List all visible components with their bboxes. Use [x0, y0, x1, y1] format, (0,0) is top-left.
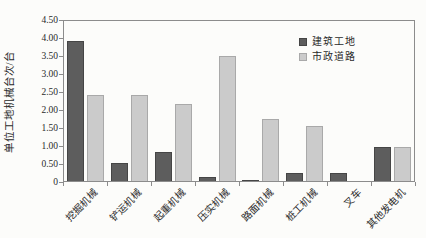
y-tick-mark — [59, 92, 63, 93]
y-tick-label-0.50: 0.50 — [14, 158, 58, 170]
y-tick-mark — [59, 164, 63, 165]
y-tick-label-3.00: 3.00 — [14, 68, 58, 80]
x-label-7: 其他发电机 — [365, 187, 408, 230]
y-tick-mark — [59, 110, 63, 111]
y-tick-mark — [59, 74, 63, 75]
bar-construction-site-2 — [155, 152, 172, 181]
x-tick-mark — [283, 182, 284, 186]
y-tick-mark — [59, 56, 63, 57]
x-tick-mark — [239, 182, 240, 186]
bar-group-7 — [370, 21, 414, 181]
x-label-1: 铲运机械 — [108, 187, 144, 223]
bar-municipal-road-5 — [306, 126, 323, 181]
y-tick-mark — [59, 128, 63, 129]
x-tick-mark — [415, 182, 416, 186]
bar-group-3 — [195, 21, 239, 181]
x-tick-mark — [371, 182, 372, 186]
bar-municipal-road-4 — [262, 119, 279, 181]
bar-group-1 — [108, 21, 152, 181]
bar-construction-site-0 — [67, 41, 84, 181]
y-tick-label-4.00: 4.00 — [14, 32, 58, 44]
bar-construction-site-4 — [242, 180, 259, 181]
legend-label-municipal-road: 市政道路 — [312, 51, 356, 63]
x-label-2: 起重机械 — [152, 187, 188, 223]
x-tick-mark — [107, 182, 108, 186]
x-label-6: 叉车 — [342, 187, 364, 209]
x-label-0: 挖掘机械 — [64, 187, 100, 223]
y-tick-label-2.00: 2.00 — [14, 104, 58, 116]
x-tick-mark — [195, 182, 196, 186]
bar-construction-site-5 — [286, 173, 303, 181]
bar-construction-site-7 — [374, 147, 391, 181]
legend-label-construction-site: 建筑工地 — [312, 36, 356, 48]
x-label-5: 桩工机械 — [284, 187, 320, 223]
bar-group-0 — [64, 21, 108, 181]
legend-item-municipal-road: 市政道路 — [299, 51, 356, 63]
bar-municipal-road-1 — [131, 95, 148, 181]
y-tick-mark — [59, 20, 63, 21]
y-tick-label-0: 0 — [14, 176, 58, 188]
x-tick-mark — [63, 182, 64, 186]
y-tick-label-1.50: 1.50 — [14, 122, 58, 134]
bar-group-2 — [152, 21, 196, 181]
y-tick-mark — [59, 146, 63, 147]
plot-area — [63, 20, 415, 182]
bar-municipal-road-3 — [219, 56, 236, 181]
y-tick-label-3.50: 3.50 — [14, 50, 58, 62]
legend-item-construction-site: 建筑工地 — [299, 36, 356, 48]
y-tick-label-4.50: 4.50 — [14, 14, 58, 26]
x-tick-mark — [151, 182, 152, 186]
bar-municipal-road-7 — [394, 147, 411, 181]
bar-construction-site-3 — [199, 177, 216, 181]
y-tick-label-2.50: 2.50 — [14, 86, 58, 98]
bar-municipal-road-2 — [175, 104, 192, 181]
legend-swatch-light-icon — [299, 53, 307, 61]
grouped-bar-chart: 单位工地机械台次/台 建筑工地 市政道路 00.501.001.502.002.… — [0, 0, 426, 238]
x-label-3: 压实机械 — [196, 187, 232, 223]
bar-group-4 — [239, 21, 283, 181]
y-tick-mark — [59, 38, 63, 39]
x-tick-mark — [327, 182, 328, 186]
bar-construction-site-1 — [111, 163, 128, 181]
bar-construction-site-6 — [330, 173, 347, 181]
legend-swatch-dark-icon — [299, 38, 307, 46]
x-label-4: 路面机械 — [240, 187, 276, 223]
bar-municipal-road-0 — [87, 95, 104, 181]
legend: 建筑工地 市政道路 — [299, 36, 356, 63]
y-tick-label-1.00: 1.00 — [14, 140, 58, 152]
